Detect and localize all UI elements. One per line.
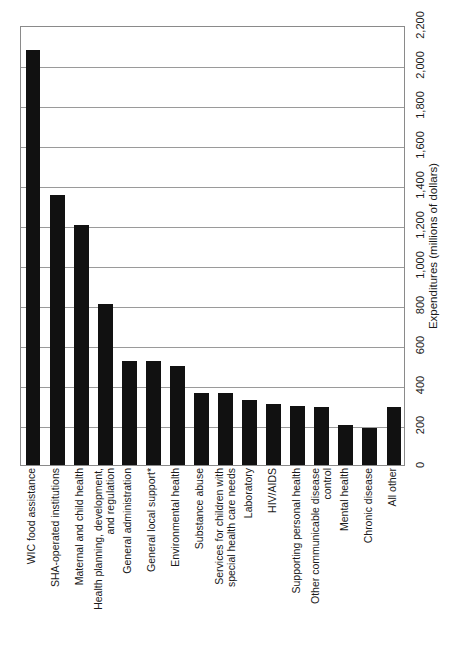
category-label: All other: [381, 468, 405, 645]
category-label-text: Health planning, development,and regulat…: [93, 468, 116, 610]
category-label: Other communicable diseasecontrol: [309, 468, 333, 645]
bar: [194, 393, 209, 465]
category-label: Substance abuse: [188, 468, 212, 645]
bar: [314, 407, 329, 465]
category-label: Mental health: [333, 468, 357, 645]
category-label-line: control: [321, 468, 333, 604]
category-label-text: WIC food assistance: [26, 468, 38, 564]
category-label-line: Laboratory: [242, 468, 254, 518]
bar: [74, 225, 89, 465]
category-label: SHA-operated institutions: [44, 468, 68, 645]
category-label-text: Environmental health: [171, 468, 183, 567]
category-label-text: Other communicable diseasecontrol: [309, 468, 332, 604]
category-label-line: Other communicable disease: [308, 468, 320, 604]
category-label-line: Supporting personal health: [290, 468, 302, 594]
bar: [218, 393, 233, 465]
category-label-line: General local support*: [146, 468, 158, 572]
bar: [290, 406, 305, 465]
category-label-text: General administration: [123, 468, 135, 574]
category-label: WIC food assistance: [20, 468, 44, 645]
value-axis-title-label: Expenditures (millions of dollars): [427, 163, 439, 329]
category-label-line: and regulation: [104, 468, 116, 610]
category-label-text: Mental health: [339, 468, 351, 531]
chart-figure: 02004006008001,0001,2001,4001,6001,8002,…: [0, 0, 475, 645]
category-label-text: Chronic disease: [363, 468, 375, 543]
category-label: Environmental health: [164, 468, 188, 645]
bar: [338, 425, 353, 465]
category-label-line: Substance abuse: [194, 468, 206, 549]
category-label: Health planning, development,and regulat…: [92, 468, 116, 645]
category-label-line: Maternal and child health: [73, 468, 85, 585]
category-label-text: All other: [387, 468, 399, 507]
bar: [98, 304, 113, 465]
category-label-text: Maternal and child health: [74, 468, 86, 585]
category-label-line: All other: [386, 468, 398, 507]
category-label-line: Services for children with: [212, 468, 224, 585]
category-label-line: Environmental health: [170, 468, 182, 567]
category-label: HIV/AIDS: [261, 468, 285, 645]
category-label: Laboratory: [237, 468, 261, 645]
bar: [170, 366, 185, 465]
category-label-line: Health planning, development,: [92, 468, 104, 610]
bar: [266, 404, 281, 465]
bar: [122, 361, 137, 465]
category-label: Chronic disease: [357, 468, 381, 645]
category-label-line: HIV/AIDS: [266, 468, 278, 513]
bar: [26, 50, 41, 465]
category-label-line: General administration: [122, 468, 134, 574]
bar: [50, 195, 65, 465]
category-label: General local support*: [140, 468, 164, 645]
value-axis-title: Expenditures (millions of dollars): [424, 26, 442, 466]
category-label-line: WIC food assistance: [25, 468, 37, 564]
plot-area: [20, 26, 405, 466]
category-label-line: Chronic disease: [362, 468, 374, 543]
category-label-text: HIV/AIDS: [267, 468, 279, 513]
bar-series: [21, 27, 404, 465]
category-label-text: Substance abuse: [195, 468, 207, 549]
bar: [362, 428, 377, 465]
category-label-line: Mental health: [338, 468, 350, 531]
category-label-text: General local support*: [147, 468, 159, 572]
category-label-line: special health care needs: [225, 468, 237, 587]
bar: [387, 407, 402, 465]
category-label-text: Services for children withspecial health…: [213, 468, 236, 587]
category-label: General administration: [116, 468, 140, 645]
bar: [146, 361, 161, 465]
category-axis-labels: WIC food assistanceSHA-operated institut…: [20, 468, 405, 645]
category-label-text: SHA-operated institutions: [50, 468, 62, 587]
category-label: Services for children withspecial health…: [213, 468, 237, 645]
category-label: Supporting personal health: [285, 468, 309, 645]
category-label: Maternal and child health: [68, 468, 92, 645]
category-label-text: Supporting personal health: [291, 468, 303, 594]
category-label-text: Laboratory: [243, 468, 255, 518]
bar: [242, 400, 257, 465]
category-label-line: SHA-operated institutions: [49, 468, 61, 587]
